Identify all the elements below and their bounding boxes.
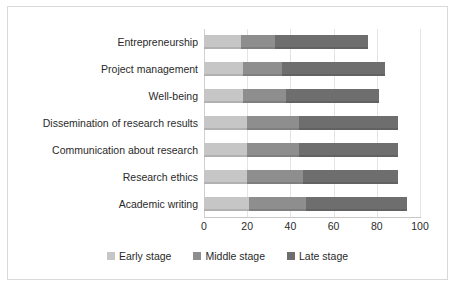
x-tick-label: 80 bbox=[371, 220, 383, 232]
bar-segment-late-stage[interactable] bbox=[282, 62, 386, 76]
bar-segment-late-stage[interactable] bbox=[286, 89, 379, 103]
bar-segment-early-stage[interactable] bbox=[204, 170, 247, 184]
bar-segment-middle-stage[interactable] bbox=[243, 89, 286, 103]
bar-segment-middle-stage[interactable] bbox=[241, 35, 276, 49]
legend-label: Early stage bbox=[119, 250, 172, 262]
bar-segment-early-stage[interactable] bbox=[204, 143, 247, 157]
plot-area bbox=[204, 29, 420, 217]
legend-swatch-icon bbox=[287, 252, 295, 260]
bar-segment-middle-stage[interactable] bbox=[247, 116, 299, 130]
category-label: Well-being bbox=[18, 90, 198, 102]
chart-legend: Early stageMiddle stageLate stage bbox=[8, 250, 447, 262]
bar-row[interactable] bbox=[204, 116, 420, 130]
x-tick-label: 40 bbox=[285, 220, 297, 232]
category-label: Research ethics bbox=[18, 171, 198, 183]
bar-segment-early-stage[interactable] bbox=[204, 35, 241, 49]
bars-layer bbox=[204, 29, 420, 217]
x-tick-label: 100 bbox=[411, 220, 429, 232]
gridline-100 bbox=[420, 29, 421, 217]
category-axis-labels: EntrepreneurshipProject managementWell-b… bbox=[18, 29, 198, 217]
bar-row[interactable] bbox=[204, 35, 420, 49]
x-tick-label: 20 bbox=[241, 220, 253, 232]
bar-segment-middle-stage[interactable] bbox=[249, 197, 305, 211]
bar-segment-late-stage[interactable] bbox=[306, 197, 408, 211]
legend-item[interactable]: Early stage bbox=[107, 250, 172, 262]
bar-segment-early-stage[interactable] bbox=[204, 197, 249, 211]
bar-segment-late-stage[interactable] bbox=[299, 143, 398, 157]
bar-segment-late-stage[interactable] bbox=[303, 170, 398, 184]
chart-frame: EntrepreneurshipProject managementWell-b… bbox=[7, 6, 448, 280]
bar-segment-middle-stage[interactable] bbox=[243, 62, 282, 76]
bar-segment-early-stage[interactable] bbox=[204, 89, 243, 103]
legend-item[interactable]: Late stage bbox=[287, 250, 348, 262]
bar-segment-early-stage[interactable] bbox=[204, 116, 247, 130]
category-label: Entrepreneurship bbox=[18, 36, 198, 48]
category-label: Academic writing bbox=[18, 198, 198, 210]
bar-segment-middle-stage[interactable] bbox=[247, 143, 299, 157]
legend-item[interactable]: Middle stage bbox=[193, 250, 265, 262]
bar-row[interactable] bbox=[204, 170, 420, 184]
x-axis-tick-labels: 020406080100 bbox=[204, 220, 420, 236]
category-label: Communication about research bbox=[18, 144, 198, 156]
legend-swatch-icon bbox=[193, 252, 201, 260]
category-label: Dissemination of research results bbox=[18, 117, 198, 129]
x-tick-label: 0 bbox=[201, 220, 207, 232]
bar-row[interactable] bbox=[204, 62, 420, 76]
x-axis-line bbox=[204, 217, 421, 218]
legend-label: Late stage bbox=[299, 250, 348, 262]
bar-row[interactable] bbox=[204, 197, 420, 211]
category-label: Project management bbox=[18, 63, 198, 75]
bar-row[interactable] bbox=[204, 143, 420, 157]
bar-segment-late-stage[interactable] bbox=[275, 35, 368, 49]
legend-swatch-icon bbox=[107, 252, 115, 260]
bar-segment-middle-stage[interactable] bbox=[247, 170, 303, 184]
legend-label: Middle stage bbox=[205, 250, 265, 262]
bar-segment-late-stage[interactable] bbox=[299, 116, 398, 130]
bar-segment-early-stage[interactable] bbox=[204, 62, 243, 76]
bar-row[interactable] bbox=[204, 89, 420, 103]
x-tick-label: 60 bbox=[328, 220, 340, 232]
